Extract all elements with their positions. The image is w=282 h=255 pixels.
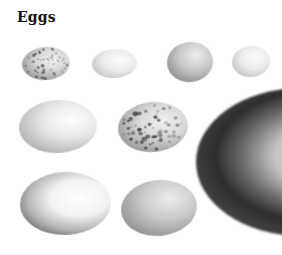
speckle-pattern-icon bbox=[116, 99, 190, 155]
page-title: Eggs bbox=[17, 9, 56, 25]
egg-3 bbox=[164, 39, 215, 85]
egg-1 bbox=[21, 45, 71, 81]
egg-4 bbox=[230, 44, 271, 79]
eggs-illustration: Eggs bbox=[0, 0, 282, 255]
speckle-pattern-icon bbox=[21, 45, 71, 81]
egg-7 bbox=[19, 170, 112, 236]
egg-2 bbox=[91, 48, 137, 79]
egg-6 bbox=[116, 99, 190, 155]
egg-5 bbox=[18, 98, 99, 155]
egg-8 bbox=[118, 176, 199, 240]
egg-large bbox=[196, 88, 282, 236]
